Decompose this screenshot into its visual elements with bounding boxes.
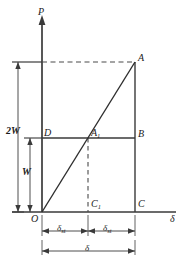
- point-label-o: O: [31, 214, 38, 224]
- point-label-c: C: [138, 199, 145, 209]
- axis-label-delta: δ: [170, 214, 175, 224]
- point-label-a1-subscript: 1: [97, 132, 100, 139]
- dimension-label-delta-st-right-subscript: st: [107, 227, 111, 234]
- dimension-label-delta-total: δ: [85, 244, 89, 253]
- axis-label-p: P: [38, 7, 44, 17]
- point-label-a1: A1: [91, 128, 100, 138]
- dimension-label-w: W: [22, 167, 31, 177]
- point-label-b: B: [138, 129, 144, 139]
- dimension-2w: [12, 62, 42, 212]
- point-label-c1-subscript: 1: [98, 203, 101, 210]
- point-label-d: D: [44, 128, 51, 138]
- dimension-label-delta-st-right: δst: [103, 224, 112, 233]
- dimension-label-delta-st-left-subscript: st: [61, 227, 65, 234]
- dimension-delta-st-row: [42, 215, 135, 236]
- point-label-c1: C1: [91, 199, 101, 209]
- point-label-a: A: [138, 53, 144, 63]
- p-axis: [39, 15, 46, 212]
- dimension-label-2w: 2W: [6, 126, 20, 136]
- impact-load-deflection-diagram: P δ A D B A1 C1 C O 2W W δst δst δ: [0, 0, 184, 265]
- point-label-c1-base: C: [91, 198, 98, 209]
- dimension-label-delta-st-left: δst: [57, 224, 66, 233]
